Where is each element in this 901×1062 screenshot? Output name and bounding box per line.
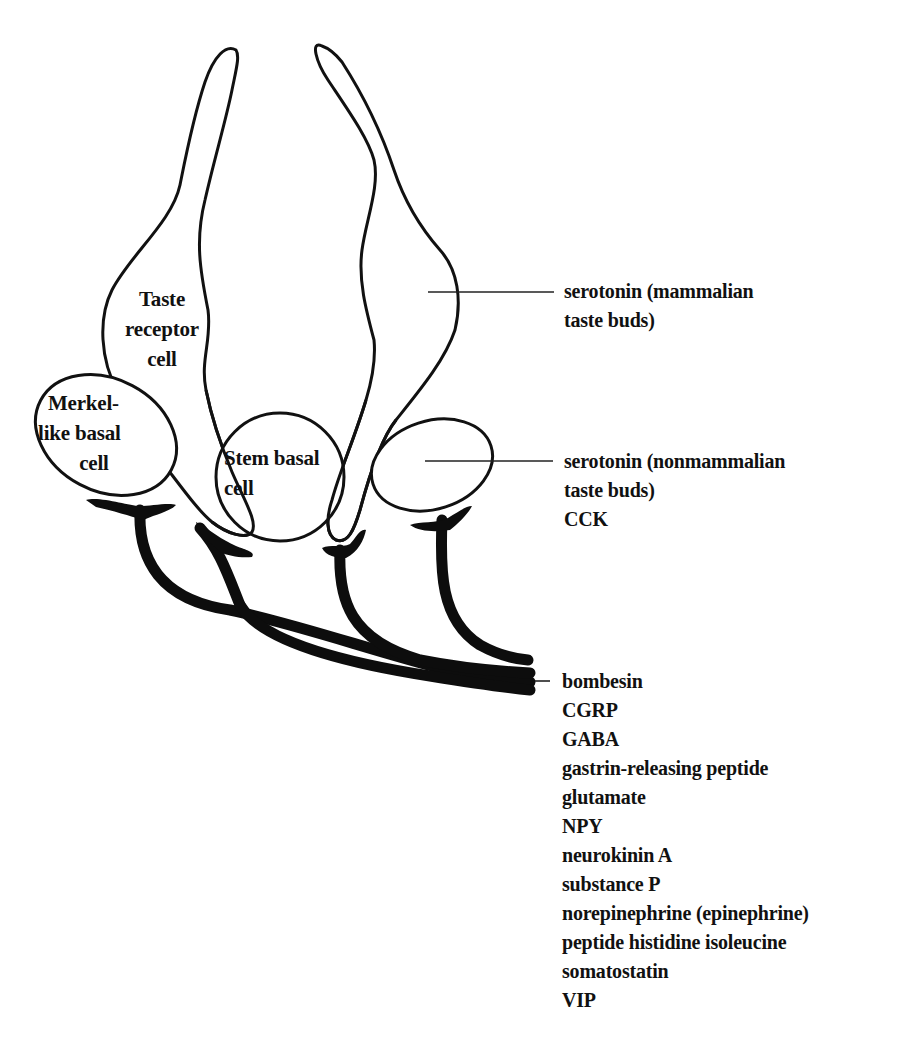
nerve-ending-merkel xyxy=(86,499,176,520)
legend-item: substance P xyxy=(562,870,809,899)
stem-basal-label-line: cell xyxy=(224,473,344,503)
legend-item: somatostatin xyxy=(562,957,809,986)
taste-receptor-label-line: receptor xyxy=(112,314,212,344)
legend-item: bombesin xyxy=(562,667,809,696)
legend-item: CCK xyxy=(564,505,785,534)
legend-item: taste buds) xyxy=(564,476,785,505)
legend-item: serotonin (mammalian xyxy=(564,277,754,306)
taste-receptor-label-line: Taste xyxy=(112,284,212,314)
legend-item: neurokinin A xyxy=(562,841,809,870)
merkel-label-line: Merkel- xyxy=(38,388,150,418)
merkel-like-basal-cell-label: Merkel- like basal cell xyxy=(38,388,150,478)
legend-item: peptide histidine isoleucine xyxy=(562,928,809,957)
merkel-label-line: cell xyxy=(38,448,150,478)
taste-receptor-label-line: cell xyxy=(112,344,212,374)
legend-mammalian-serotonin: serotonin (mammalian taste buds) xyxy=(564,277,754,335)
stem-basal-cell-label: Stem basal cell xyxy=(224,443,344,503)
taste-receptor-cell-label: Taste receptor cell xyxy=(112,284,212,374)
stem-basal-label-line: Stem basal xyxy=(224,443,344,473)
legend-item: NPY xyxy=(562,812,809,841)
legend-item: gastrin-releasing peptide xyxy=(562,754,809,783)
legend-item: serotonin (nonmammalian xyxy=(564,447,785,476)
legend-item: CGRP xyxy=(562,696,809,725)
legend-item: VIP xyxy=(562,986,809,1015)
nerve-fiber-oval xyxy=(441,520,528,660)
legend-nerve-substances: bombesin CGRP GABA gastrin-releasing pep… xyxy=(562,667,809,1015)
legend-item: norepinephrine (epinephrine) xyxy=(562,899,809,928)
legend-nonmammalian-serotonin: serotonin (nonmammalian taste buds) CCK xyxy=(564,447,785,534)
legend-item: taste buds) xyxy=(564,306,754,335)
legend-item: glutamate xyxy=(562,783,809,812)
legend-item: GABA xyxy=(562,725,809,754)
merkel-label-line: like basal xyxy=(38,418,150,448)
